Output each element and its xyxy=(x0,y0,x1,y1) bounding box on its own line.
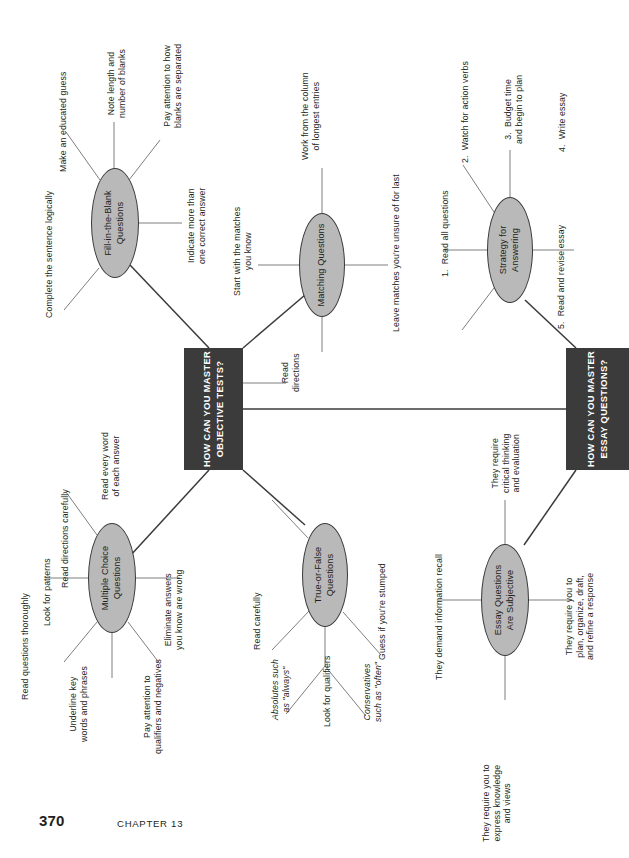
branch-label-they-require-critical-thinking: They require critical thinking and evalu… xyxy=(490,433,522,493)
branch-label-look-for-patterns: Look for patterns xyxy=(42,558,53,626)
branch-label-complete-the-sentence: Complete the sentence logically xyxy=(44,191,55,318)
node-essay-questions-are-subjective-label: Essay Questions Are Subjective xyxy=(493,565,517,635)
node-matching-questions-label: Matching Questions xyxy=(316,224,328,307)
node-strategy-for-answering-label: Strategy for Answering xyxy=(498,226,522,275)
branch-label-look-for-qualifiers: Look for qualifiers xyxy=(322,656,333,727)
branch-label-eliminate-answers-wrong: Eliminate answers you know are wrong xyxy=(163,570,184,650)
hub-essay-questions-label: HOW CAN YOU MASTER ESSAY QUESTIONS? xyxy=(584,351,611,467)
branch-label-they-demand-information-recall: They demand information recall xyxy=(434,554,445,680)
node-fill-in-the-blank[interactable]: Fill-in-the-Blank Questions xyxy=(91,168,139,278)
branch-label-work-from-the-column: Work from the column of longest entries xyxy=(300,72,321,160)
node-matching-questions[interactable]: Matching Questions xyxy=(299,213,345,317)
hub-essay-questions[interactable]: HOW CAN YOU MASTER ESSAY QUESTIONS? xyxy=(566,348,629,470)
branch-label-watch-for-action-verbs: 2. Watch for action verbs xyxy=(460,61,471,163)
branch-label-they-require-express-knowledge: They require you to express knowledge an… xyxy=(481,764,513,842)
node-essay-questions-are-subjective[interactable]: Essay Questions Are Subjective xyxy=(481,544,529,656)
branch-label-conservatives-such-as-often: Conservatives such as "often" xyxy=(362,662,383,722)
branch-label-note-length-and-number-of-blanks: Note length and number of blanks xyxy=(106,49,127,118)
branch-label-budget-time-and-plan: 3. Budget time and begin to plan xyxy=(503,75,524,144)
node-multiple-choice-questions-label: Multiple Choice Questions xyxy=(100,546,124,610)
branch-label-pay-attention-to-blanks: Pay attention to how blanks are separate… xyxy=(162,44,183,128)
branch-label-read-carefully: Read carefully xyxy=(252,592,263,650)
hub-objective-tests-label: HOW CAN YOU MASTER OBJECTIVE TESTS? xyxy=(200,351,227,467)
hub-objective-tests[interactable]: HOW CAN YOU MASTER OBJECTIVE TESTS? xyxy=(184,348,243,470)
page-number: 370 xyxy=(39,812,65,829)
node-true-or-false-questions-label: True-or-False Questions xyxy=(313,547,337,604)
branch-label-indicate-more-than-one-correct-answer: Indicate more than one correct answer xyxy=(186,187,207,264)
chapter-label: CHAPTER 13 xyxy=(117,818,183,829)
node-true-or-false-questions[interactable]: True-or-False Questions xyxy=(302,523,348,627)
branch-label-absolutes-such-as-always: Absolutes such as "always" xyxy=(270,659,291,720)
node-multiple-choice-questions[interactable]: Multiple Choice Questions xyxy=(88,523,136,633)
node-fill-in-the-blank-label: Fill-in-the-Blank Questions xyxy=(103,190,127,256)
concept-map-page: HOW CAN YOU MASTER OBJECTIVE TESTS? HOW … xyxy=(0,0,629,858)
branch-label-guess-if-stumped: Guess if you're stumped xyxy=(377,563,388,660)
branch-label-write-essay: 4. Write essay xyxy=(557,92,568,152)
branch-label-they-require-plan-organize-draft: They require you to plan, organize, draf… xyxy=(564,573,596,660)
branch-label-read-directions-carefully: Read directions carefully xyxy=(60,489,71,588)
branch-label-read-all-questions: 1. Read all questions xyxy=(440,190,451,277)
branch-label-leave-matches-unsure: Leave matches you're unsure of for last xyxy=(391,174,402,332)
branch-label-underline-key-words: Underline key words and phrases xyxy=(68,666,89,742)
branch-label-read-directions: Read directions xyxy=(280,353,301,392)
branch-label-start-with-the-matches: Start with the matches you know xyxy=(232,207,253,296)
branch-label-read-every-word-of-each-answer: Read every word of each answer xyxy=(100,432,121,500)
branch-label-read-and-revise-essay: 5. Read and revise essay xyxy=(556,225,567,329)
branch-label-read-questions-thoroughly: Read questions thoroughly xyxy=(20,593,31,700)
node-strategy-for-answering[interactable]: Strategy for Answering xyxy=(487,197,533,303)
branch-label-make-an-educated-guess: Make an educated guess xyxy=(58,72,69,172)
branch-label-pay-attention-qualifiers-negatives: Pay attention to qualifiers and negative… xyxy=(142,659,163,754)
